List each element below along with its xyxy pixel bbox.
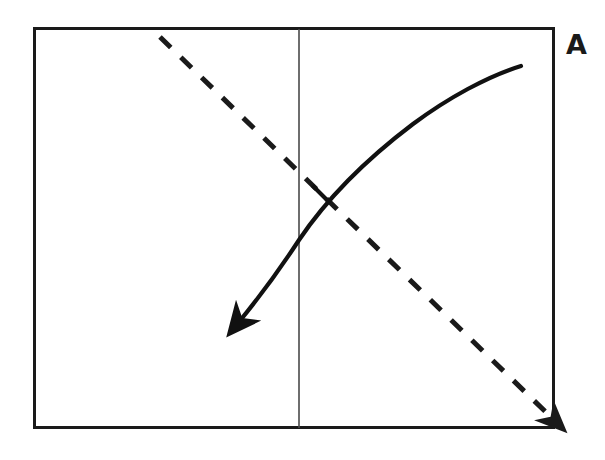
diagram-canvas: A xyxy=(0,0,605,460)
panel-label-a: A xyxy=(566,29,587,60)
figure-container: A xyxy=(0,0,605,460)
plot-area-background xyxy=(35,29,554,428)
